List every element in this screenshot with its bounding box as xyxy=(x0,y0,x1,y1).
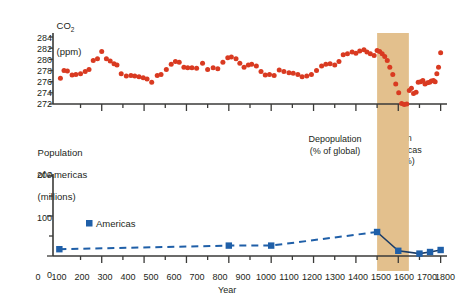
legend-marker-americas xyxy=(86,220,93,227)
co2-data-point xyxy=(177,60,182,65)
co2-data-point xyxy=(390,72,395,77)
population-data-point xyxy=(395,248,401,254)
co2-data-point xyxy=(286,70,291,75)
co2-data-point xyxy=(124,74,129,79)
population-data-point xyxy=(437,247,443,253)
co2-data-point xyxy=(259,69,264,74)
co2-data-point xyxy=(323,62,328,67)
co2-data-point xyxy=(436,65,441,70)
plot-canvas xyxy=(0,0,458,301)
co2-data-point xyxy=(194,66,199,71)
co2-data-point xyxy=(304,74,309,79)
population-data-point xyxy=(427,249,433,255)
co2-data-point xyxy=(336,59,341,64)
population-data-point xyxy=(374,229,380,235)
co2-data-point xyxy=(254,64,259,69)
co2-data-point xyxy=(434,71,439,76)
co2-data-point xyxy=(263,72,268,77)
co2-data-point xyxy=(242,65,247,70)
co2-data-point xyxy=(357,48,362,53)
co2-data-point xyxy=(114,62,119,67)
co2-data-point xyxy=(58,76,63,81)
population-data-point xyxy=(56,246,62,252)
co2-data-point xyxy=(387,65,392,70)
co2-data-point xyxy=(438,50,443,55)
population-data-point xyxy=(416,250,422,256)
co2-data-point xyxy=(237,61,242,66)
co2-data-point xyxy=(211,65,216,70)
co2-data-point xyxy=(78,71,83,76)
co2-data-point xyxy=(229,55,234,60)
co2-data-point xyxy=(87,67,92,72)
co2-data-point xyxy=(200,61,205,66)
co2-data-point xyxy=(220,60,225,65)
co2-data-point xyxy=(295,72,300,77)
co2-data-point xyxy=(272,73,277,78)
figure-container: CO2 (ppm) 284 282 280 278 276 274 272 Po… xyxy=(0,0,458,301)
co2-data-point xyxy=(414,90,419,95)
co2-data-point xyxy=(145,76,150,81)
co2-data-point xyxy=(314,68,319,73)
population-data-point xyxy=(226,242,232,248)
co2-data-point xyxy=(385,58,390,63)
co2-data-point xyxy=(267,72,272,77)
co2-data-point xyxy=(189,65,194,70)
co2-data-point xyxy=(99,49,104,54)
co2-data-point xyxy=(341,52,346,57)
legend-marker-layer xyxy=(86,220,93,227)
co2-data-point xyxy=(328,61,333,66)
co2-data-point xyxy=(345,51,350,56)
co2-data-point xyxy=(404,102,409,107)
co2-data-point xyxy=(249,62,254,67)
co2-data-point xyxy=(396,90,401,95)
co2-data-point xyxy=(73,72,78,77)
co2-data-point xyxy=(300,74,305,79)
co2-data-point xyxy=(393,81,398,86)
co2-data-point xyxy=(132,74,137,79)
co2-data-point xyxy=(95,56,100,61)
co2-data-point xyxy=(164,67,169,72)
co2-data-point xyxy=(215,66,220,71)
population-data-point xyxy=(268,242,274,248)
co2-data-point xyxy=(433,79,438,84)
co2-data-point xyxy=(119,71,124,76)
co2-data-point xyxy=(332,62,337,67)
population-line-dashed xyxy=(59,232,377,249)
co2-data-point xyxy=(291,71,296,76)
co2-data-point xyxy=(205,67,210,72)
co2-data-point xyxy=(277,67,282,72)
co2-data-point xyxy=(169,62,174,67)
co2-data-point xyxy=(309,72,314,77)
co2-data-point xyxy=(234,56,239,61)
co2-data-point xyxy=(65,69,70,74)
co2-data-point xyxy=(281,69,286,74)
co2-data-point xyxy=(137,74,142,79)
co2-data-point xyxy=(159,72,164,77)
co2-data-point xyxy=(409,86,414,91)
co2-data-point xyxy=(372,53,377,58)
co2-data-point xyxy=(149,80,154,85)
